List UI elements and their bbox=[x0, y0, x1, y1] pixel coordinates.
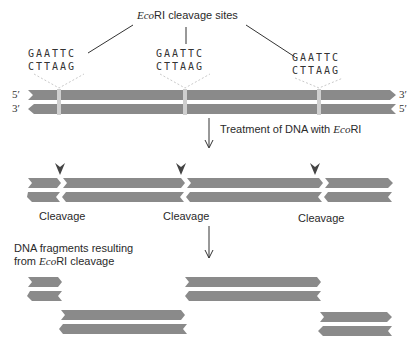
site-3-mark bbox=[317, 89, 321, 115]
ecori-diagram: EcoRI cleavage sites GAATTC CTTAAG GAATT… bbox=[0, 0, 415, 348]
cleavage-label-1: Cleavage bbox=[39, 210, 85, 222]
end-3-top-right: 3′ bbox=[399, 88, 407, 100]
site-guides bbox=[34, 74, 343, 88]
fragment-2 bbox=[59, 310, 187, 334]
cleavage-marker-icon bbox=[310, 163, 320, 175]
site-1-sequence: GAATTC CTTAAG bbox=[28, 48, 76, 72]
top-strand bbox=[28, 90, 396, 100]
svg-text:CTTAAG: CTTAAG bbox=[292, 65, 340, 76]
result-label-line-2: from EcoRI cleavage bbox=[14, 255, 114, 267]
cleavage-label-2: Cleavage bbox=[163, 210, 209, 222]
end-5-top-left: 5′ bbox=[12, 88, 20, 100]
site-3-sequence: GAATTC CTTAAG bbox=[292, 52, 340, 76]
intact-dna bbox=[28, 89, 396, 115]
end-3-bottom-left: 3′ bbox=[12, 102, 20, 114]
fragment-3 bbox=[185, 277, 321, 301]
cleavage-marker-icon bbox=[176, 163, 186, 175]
step-label: Treatment of DNA with EcoRI bbox=[220, 123, 361, 135]
fragment-1 bbox=[27, 277, 62, 301]
step-arrow-2 bbox=[205, 226, 213, 258]
svg-text:GAATTC: GAATTC bbox=[156, 48, 204, 59]
bottom-strand bbox=[28, 104, 396, 114]
cleavage-marker-icon bbox=[55, 163, 65, 175]
svg-text:CTTAAG: CTTAAG bbox=[28, 61, 76, 72]
site-2-mark bbox=[183, 89, 187, 115]
cleavage-label-3: Cleavage bbox=[298, 212, 344, 224]
site-2-sequence: GAATTC CTTAAG bbox=[156, 48, 204, 72]
svg-text:GAATTC: GAATTC bbox=[28, 48, 76, 59]
site-1-mark bbox=[57, 89, 61, 115]
step-arrow-1 bbox=[205, 118, 213, 148]
svg-text:CTTAAG: CTTAAG bbox=[156, 61, 204, 72]
cleavage-markers bbox=[55, 163, 320, 175]
fragment-4 bbox=[318, 312, 392, 336]
svg-text:GAATTC: GAATTC bbox=[292, 52, 340, 63]
cleaved-dna bbox=[27, 178, 393, 202]
result-label-line-1: DNA fragments resulting bbox=[14, 242, 133, 254]
end-5-bottom-right: 5′ bbox=[399, 102, 407, 114]
title: EcoRI cleavage sites bbox=[136, 9, 238, 21]
